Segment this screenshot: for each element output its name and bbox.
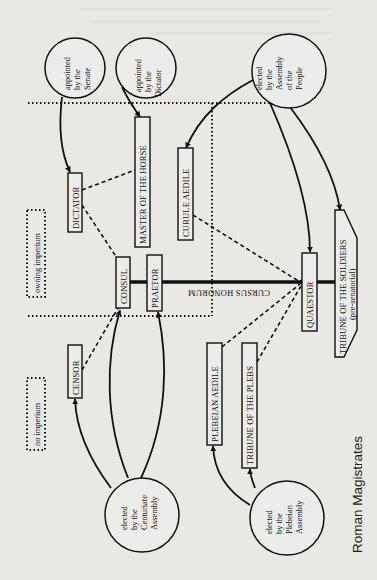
svg-text:elected: elected [265, 509, 274, 534]
diagram-canvas: CURSUS HONORUM appointed by th [0, 0, 377, 580]
office-dictator: DICTATOR [68, 173, 82, 232]
svg-text:by the: by the [275, 513, 284, 534]
svg-text:by the: by the [73, 69, 82, 90]
legend-owning-imperium: owning imperium [27, 210, 45, 297]
svg-text:no imperium: no imperium [33, 402, 42, 446]
svg-text:DICTATOR: DICTATOR [71, 186, 81, 229]
svg-text:by the: by the [144, 71, 153, 92]
office-tribune-of-the-plebs: TRIBUNE OF THE PLEBS [242, 343, 257, 468]
svg-text:elected: elected [120, 505, 129, 530]
svg-text:elected: elected [255, 65, 264, 90]
svg-text:TRIBUNE OF THE SOLDIERS: TRIBUNE OF THE SOLDIERS [338, 239, 348, 354]
office-censor: CENSOR [68, 345, 82, 398]
legend-no-imperium: no imperium [27, 378, 45, 450]
pre-senatorial-note: (pre-senatorial) [348, 268, 357, 320]
svg-text:of the: of the [285, 70, 294, 90]
office-plebeian-aedile: PLEBEIAN AEDILE [207, 343, 222, 445]
svg-text:Assembly: Assembly [275, 56, 284, 90]
page-bleed-through [80, 8, 330, 35]
source-plebeian-assembly: elected by the Plebeian Assembly [250, 481, 324, 555]
source-assembly-of-the-people: elected by the Assembly of the People [252, 34, 326, 108]
svg-text:CURULE AEDILE: CURULE AEDILE [181, 169, 191, 237]
office-curule-aedile: CURULE AEDILE [178, 148, 193, 240]
svg-text:appointed: appointed [63, 56, 72, 90]
office-consul: CONSUL [116, 257, 130, 308]
office-praetor: PRAETOR [147, 255, 162, 311]
source-centuriate-assembly: elected by the Centuriate Assembly [105, 478, 179, 552]
cursus-honorum-label: CURSUS HONORUM [188, 288, 270, 297]
svg-text:Plebeian: Plebeian [285, 504, 294, 534]
svg-text:owning imperium: owning imperium [33, 233, 42, 293]
svg-text:Assembly: Assembly [150, 496, 159, 530]
office-master-of-the-horse: MASTER OF THE HORSE [135, 117, 150, 247]
svg-text:Senate: Senate [83, 67, 92, 90]
svg-text:MASTER OF THE HORSE: MASTER OF THE HORSE [138, 145, 148, 244]
svg-text:by the: by the [265, 69, 274, 90]
svg-text:CENSOR: CENSOR [71, 360, 81, 395]
figure-title: Roman Magistrates [350, 436, 365, 553]
roman-magistrates-figure: CURSUS HONORUM appointed by th [0, 0, 377, 580]
svg-text:Assembly: Assembly [295, 500, 304, 534]
svg-text:PLEBEIAN AEDILE: PLEBEIAN AEDILE [210, 366, 220, 442]
svg-text:by the: by the [130, 509, 139, 530]
office-tribune-of-the-soldiers: TRIBUNE OF THE SOLDIERS (pre-senatorial) [335, 210, 357, 357]
svg-text:QUAESTOR: QUAESTOR [305, 281, 315, 328]
svg-text:People: People [295, 67, 304, 90]
office-quaestor: QUAESTOR [302, 253, 317, 331]
svg-text:PRAETOR: PRAETOR [150, 268, 160, 308]
svg-text:Dictator: Dictator [154, 69, 163, 97]
svg-text:CONSUL: CONSUL [119, 269, 129, 304]
svg-text:appointed: appointed [134, 58, 143, 92]
svg-text:Centuriate: Centuriate [140, 495, 149, 530]
svg-text:TRIBUNE OF THE PLEBS: TRIBUNE OF THE PLEBS [245, 366, 255, 465]
source-dictator: appointed by the Dictator [116, 38, 176, 98]
source-senate: appointed by the Senate [45, 38, 105, 98]
